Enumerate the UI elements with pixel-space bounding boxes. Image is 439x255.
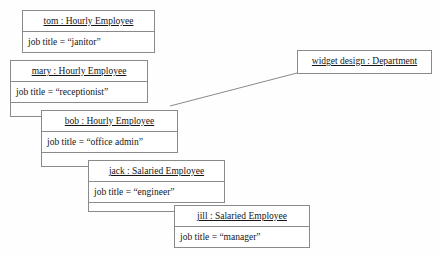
object-header-jill: jill : Salaried Employee (175, 206, 309, 227)
object-box-bob[interactable]: bob : Hourly Employeejob title = “office… (41, 110, 178, 153)
object-box-mary[interactable]: mary : Hourly Employeejob title = “recep… (10, 60, 148, 103)
object-name-jack: jack : Salaried Employee (109, 166, 204, 176)
object-attribute-jack: job title = “engineer” (89, 182, 224, 203)
object-header-mary: mary : Hourly Employee (11, 61, 147, 82)
object-name-bob: bob : Hourly Employee (65, 116, 154, 126)
object-attribute-tom: job title = “janitor” (23, 32, 154, 53)
object-attribute-jill: job title = “manager” (175, 227, 309, 248)
object-box-tom[interactable]: tom : Hourly Employeejob title = “janito… (22, 10, 155, 53)
uml-object-diagram-canvas: tom : Hourly Employeejob title = “janito… (0, 0, 439, 255)
object-header-department: widget design : Department (298, 51, 431, 73)
object-name-tom: tom : Hourly Employee (44, 16, 134, 26)
object-name-department: widget design : Department (312, 56, 417, 66)
object-header-bob: bob : Hourly Employee (42, 111, 177, 132)
object-box-department[interactable]: widget design : Department (297, 50, 432, 74)
object-attribute-bob: job title = “office admin” (42, 132, 177, 153)
object-header-jack: jack : Salaried Employee (89, 161, 224, 182)
object-name-mary: mary : Hourly Employee (32, 66, 127, 76)
object-box-jack[interactable]: jack : Salaried Employeejob title = “eng… (88, 160, 225, 203)
object-box-jill[interactable]: jill : Salaried Employeejob title = “man… (174, 205, 310, 248)
object-name-jill: jill : Salaried Employee (197, 211, 287, 221)
object-header-tom: tom : Hourly Employee (23, 11, 154, 32)
object-attribute-mary: job title = “receptionist” (11, 82, 147, 103)
link-bob-department (170, 73, 297, 106)
